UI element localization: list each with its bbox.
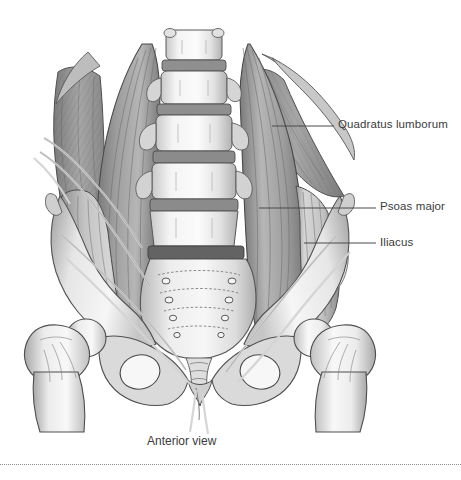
femur-right [294,319,376,432]
vertebra-L5 [150,211,238,246]
vertebra-L1 [164,29,224,61]
vertebra-L4 [136,163,252,199]
vertebra-L2 [147,71,241,104]
label-iliacus: Iliacus [380,236,413,248]
figure-caption: Anterior view [147,434,216,448]
label-quadratus-lumborum: Quadratus lumborum [338,118,448,130]
anatomical-figure: Quadratus lumborum Psoas major Iliacus A… [0,0,461,480]
bottom-divider [0,464,461,465]
femur-left [24,319,106,432]
label-psoas-major: Psoas major [380,200,445,212]
vertebra-L3 [139,115,248,151]
